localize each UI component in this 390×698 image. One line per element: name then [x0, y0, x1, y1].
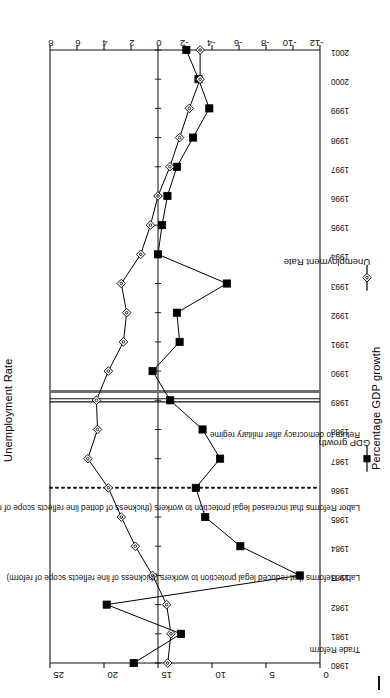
gdp-tick-label: -10	[283, 38, 297, 49]
legend-event-label-1: Trade Reform	[310, 645, 360, 654]
data-point-gdp-growth	[237, 543, 244, 550]
year-label: 2001	[330, 48, 349, 57]
legend-event-label-3: Labor Reforms that increased legal prote…	[0, 503, 360, 512]
unemployment-tick-label: 15	[161, 670, 172, 681]
data-point-unemployment-rate	[104, 484, 113, 493]
gdp-tick-label: -8	[261, 38, 269, 49]
unemployment-tick-label: 0	[323, 670, 328, 681]
data-point-gdp-growth	[192, 484, 199, 491]
year-label: 1989	[330, 398, 349, 407]
chart-plot-area: 252015105086420-2-4-6-8-10-1219801981198…	[0, 0, 390, 698]
year-label: 1980	[330, 661, 349, 670]
year-label: 1998	[330, 136, 349, 145]
year-label: 1996	[330, 194, 349, 203]
year-label: 1995	[330, 223, 349, 232]
gdp-tick-label: -4	[207, 38, 215, 49]
data-point-gdp-growth	[103, 601, 110, 608]
data-point-unemployment-rate	[92, 396, 101, 405]
data-point-unemployment-rate	[84, 454, 93, 463]
unemployment-tick-label: 5	[269, 670, 274, 681]
data-point-gdp-growth	[176, 338, 183, 345]
data-point-unemployment-rate	[117, 279, 126, 288]
data-point-gdp-growth	[167, 397, 174, 404]
year-label: 1993	[330, 282, 349, 291]
data-point-unemployment-rate	[131, 542, 140, 551]
gdp-tick-label: 4	[102, 38, 107, 49]
gdp-tick-label: 0	[156, 38, 161, 49]
year-label: 2000	[330, 77, 349, 86]
data-point-unemployment-rate	[117, 513, 126, 522]
data-point-gdp-growth	[223, 280, 230, 287]
data-point-gdp-growth	[154, 251, 161, 258]
data-point-gdp-growth	[206, 105, 213, 112]
year-label: 1987	[330, 457, 349, 466]
data-point-gdp-growth	[190, 134, 197, 141]
data-point-unemployment-rate	[104, 367, 113, 376]
gdp-tick-label: 2	[129, 38, 134, 49]
data-point-unemployment-rate	[162, 600, 171, 609]
page-rule-mark	[378, 676, 380, 690]
legend-marker-open-diamond	[363, 273, 372, 282]
gdp-tick-label: -6	[234, 38, 242, 49]
data-point-unemployment-rate	[136, 250, 145, 259]
unemployment-tick-label: 25	[53, 670, 64, 681]
legend-event-label-2: Labor Reforms that reduced legal protect…	[6, 573, 360, 582]
data-point-unemployment-rate	[122, 308, 131, 317]
data-point-gdp-growth	[130, 659, 137, 666]
data-point-gdp-growth	[183, 46, 190, 53]
year-label: 1985	[330, 515, 349, 524]
chart-figure: Unemployment Rate Percentage GDP growth …	[0, 0, 390, 698]
year-label: 1992	[330, 311, 349, 320]
data-point-gdp-growth	[173, 309, 180, 316]
gdp-tick-label: 8	[48, 38, 53, 49]
data-point-gdp-growth	[199, 426, 206, 433]
year-label: 1997	[330, 165, 349, 174]
data-point-unemployment-rate	[166, 162, 175, 171]
data-point-unemployment-rate	[93, 425, 102, 434]
legend-marker-filled-square	[363, 455, 370, 462]
data-point-gdp-growth	[149, 367, 156, 374]
data-point-unemployment-rate	[146, 221, 155, 230]
year-label: 1999	[330, 106, 349, 115]
data-point-unemployment-rate	[163, 659, 172, 668]
legend-label-unemployment-rate: Unemployment Rate	[284, 257, 371, 268]
data-point-gdp-growth	[158, 222, 165, 229]
year-label: 1991	[330, 340, 349, 349]
year-label: 1986	[330, 486, 349, 495]
series-line-unemployment-rate	[88, 50, 200, 663]
data-point-unemployment-rate	[154, 192, 163, 201]
year-label: 1981	[330, 632, 349, 641]
data-point-unemployment-rate	[175, 133, 184, 142]
legend-event-label-4: Return to democracy after military regim…	[209, 430, 360, 439]
series-line-gdp-growth	[107, 50, 300, 663]
data-point-unemployment-rate	[196, 46, 205, 55]
unemployment-tick-label: 20	[107, 670, 118, 681]
data-point-gdp-growth	[217, 455, 224, 462]
data-point-gdp-growth	[164, 192, 171, 199]
year-label: 1984	[330, 544, 349, 553]
unemployment-tick-label: 10	[215, 670, 226, 681]
rotated-figure-container: Unemployment Rate Percentage GDP growth …	[0, 0, 390, 698]
data-point-gdp-growth	[177, 630, 184, 637]
gdp-tick-label: -12	[310, 38, 324, 49]
year-label: 1982	[330, 603, 349, 612]
data-point-gdp-growth	[202, 513, 209, 520]
data-point-unemployment-rate	[119, 338, 128, 347]
gdp-tick-label: 6	[75, 38, 80, 49]
year-label: 1990	[330, 369, 349, 378]
data-point-unemployment-rate	[185, 104, 194, 113]
